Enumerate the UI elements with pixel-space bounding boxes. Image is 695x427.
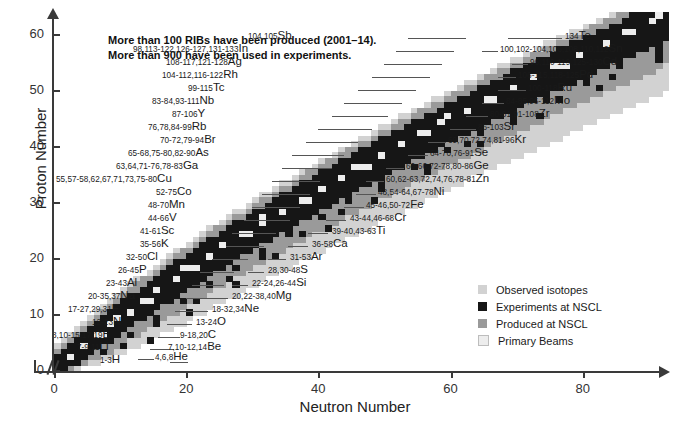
leader-line bbox=[292, 155, 344, 156]
element-symbol: Li bbox=[100, 340, 109, 352]
nuclide-cell bbox=[378, 152, 385, 158]
x-tick-label: 20 bbox=[166, 381, 206, 396]
nuclide-cell bbox=[299, 231, 306, 237]
element-symbol: Si bbox=[296, 276, 306, 288]
nuclide-cell bbox=[649, 18, 656, 24]
leader-line bbox=[200, 272, 234, 273]
isotope-label: 31-53Ar bbox=[290, 252, 322, 262]
leader-line bbox=[150, 349, 164, 350]
nuclide-cell bbox=[259, 248, 266, 254]
isotope-label: 7,10-12,14Be bbox=[168, 342, 221, 352]
leader-line bbox=[512, 64, 528, 65]
x-tick bbox=[451, 371, 453, 378]
leader-line bbox=[408, 38, 466, 39]
nuclide-cell bbox=[232, 265, 239, 271]
element-symbol: C bbox=[208, 328, 216, 340]
isotope-mass-range: 12-23 bbox=[92, 318, 113, 327]
legend: Observed isotopesExperiments at NSCLProd… bbox=[478, 281, 602, 349]
leader-line bbox=[212, 298, 228, 299]
leader-line bbox=[366, 181, 384, 182]
element-symbol: Ag bbox=[228, 55, 242, 67]
isotope-mass-range: 83-84,93-111 bbox=[152, 97, 200, 106]
nuclide-cell bbox=[351, 186, 358, 192]
nuclide-cell bbox=[259, 259, 266, 265]
isotope-mass-range: 48,54-64,67-78 bbox=[378, 188, 434, 197]
y-tick-label: 0 bbox=[18, 362, 44, 377]
isotope-label: 36-58Ca bbox=[312, 239, 348, 249]
legend-swatch bbox=[478, 335, 489, 346]
isotope-mass-range: 98,113-122,126-127,131-133 bbox=[133, 45, 238, 54]
legend-label: Primary Beams bbox=[498, 335, 573, 347]
nuclide-cell bbox=[127, 309, 134, 315]
nuclide-cell bbox=[246, 231, 253, 237]
leader-line bbox=[160, 337, 176, 338]
isotope-label: 106-115,118-125Pd bbox=[518, 70, 593, 80]
element-symbol: Ru bbox=[557, 81, 572, 93]
nuclide-cell bbox=[662, 46, 669, 52]
nuclide-cell bbox=[517, 152, 524, 158]
nuclide-cell bbox=[642, 96, 649, 102]
x-tick-label: 40 bbox=[298, 381, 338, 396]
isotope-mass-range: 80-81,91-108 bbox=[490, 110, 539, 119]
element-symbol: Rh bbox=[223, 68, 238, 80]
nuclide-cell bbox=[113, 332, 120, 338]
isotope-label: 108-117,121-128Ag bbox=[166, 57, 242, 67]
isotope-mass-range: 41-61 bbox=[140, 227, 161, 236]
element-symbol: O bbox=[217, 315, 226, 327]
element-symbol: Mg bbox=[276, 289, 292, 301]
element-symbol: Fe bbox=[410, 198, 423, 210]
nuclide-cell bbox=[629, 29, 636, 35]
leader-line bbox=[450, 129, 476, 130]
nuclide-cell bbox=[365, 164, 372, 170]
nuclide-cell bbox=[120, 343, 127, 349]
isotope-mass-range: 106-115,118-125 bbox=[518, 71, 579, 80]
nuclide-cell bbox=[305, 197, 312, 203]
legend-label: Experiments at NSCL bbox=[496, 301, 602, 313]
leader-line bbox=[498, 77, 516, 78]
isotope-label: 39-40,43-63Ti bbox=[332, 226, 385, 236]
element-symbol: Ni bbox=[434, 185, 445, 197]
isotope-label: 45-46,50-72Fe bbox=[366, 200, 424, 210]
isotope-mass-range: 43-44,46-68 bbox=[350, 214, 394, 223]
isotope-mass-range: 134 bbox=[565, 32, 579, 41]
nuclide-cell bbox=[74, 360, 81, 366]
isotope-label: 98,113-122,126-127,131-133In bbox=[133, 44, 248, 54]
nuclide-cell bbox=[127, 332, 134, 338]
nuclide-cell bbox=[655, 12, 662, 18]
isotope-label: 64-70,76-91Se bbox=[430, 148, 488, 158]
leader-line bbox=[282, 168, 332, 169]
isotope-mass-range: 28,30-48 bbox=[268, 266, 300, 275]
element-symbol: Ca bbox=[333, 237, 348, 249]
leader-line bbox=[268, 259, 286, 260]
isotope-label: 23-43Al bbox=[106, 278, 137, 288]
x-tick-label: 60 bbox=[431, 381, 471, 396]
nuclide-cell bbox=[596, 91, 603, 97]
isotope-mass-range: 23-43 bbox=[106, 279, 127, 288]
x-axis-title: Neutron Number bbox=[205, 398, 505, 415]
element-symbol: Ge bbox=[473, 159, 488, 171]
nuclide-cell bbox=[272, 231, 279, 237]
nuclide-cell bbox=[636, 74, 643, 80]
nuclide-cell bbox=[556, 108, 563, 114]
isotope-mass-range: 17-27,29,31 bbox=[68, 305, 112, 314]
isotope-label: 80-81,91-108Zr bbox=[490, 109, 550, 119]
element-symbol: Sr bbox=[504, 120, 516, 132]
isotope-mass-range: 22-24,26-44 bbox=[252, 279, 296, 288]
leader-line bbox=[396, 51, 454, 52]
nuclide-cell bbox=[589, 119, 596, 125]
isotope-label: 20,22-38,40Mg bbox=[232, 291, 292, 301]
nuclide-cell bbox=[662, 12, 669, 18]
nuclide-cell bbox=[662, 52, 669, 58]
leader-line bbox=[178, 324, 192, 325]
isotope-label: 12-23N bbox=[92, 317, 121, 327]
nuclide-cell bbox=[437, 119, 444, 125]
nuclide-cell bbox=[649, 68, 656, 74]
isotope-mass-range: 99-115 bbox=[188, 84, 213, 93]
isotope-mass-range: 60-66,72-78,80-86 bbox=[406, 162, 473, 171]
nuclide-cell bbox=[662, 85, 669, 91]
nuclide-cell bbox=[603, 113, 610, 119]
nuclide-cell bbox=[503, 158, 510, 164]
nuclide-cell bbox=[80, 360, 87, 366]
leader-line bbox=[318, 129, 372, 130]
isotope-label: 1-3H bbox=[100, 355, 120, 365]
